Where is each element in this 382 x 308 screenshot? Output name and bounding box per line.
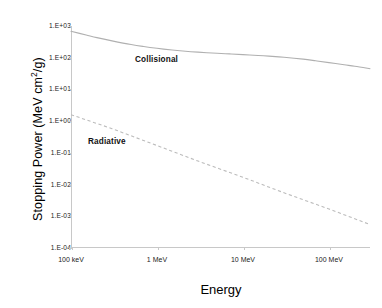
- x-axis-tick-label: 100 keV: [58, 256, 84, 263]
- y-axis-tick-label: 1.E+02: [31, 54, 71, 61]
- collisional-series-label: Collisional: [135, 55, 178, 64]
- radiative-curve: [71, 115, 370, 225]
- y-axis-tick-label: 1.E+00: [31, 117, 71, 124]
- x-axis-tick-label: 10 MeV: [231, 256, 255, 263]
- x-axis-tick-label: 100 MeV: [315, 256, 343, 263]
- stopping-power-chart: Stopping Power (MeV cm2/g) 1.E+031.E+021…: [0, 0, 382, 308]
- y-axis-tick-label: 1.E+01: [31, 85, 71, 92]
- y-axis-tick-label: 1.E-01: [31, 149, 71, 156]
- y-axis-tick-label: 1.E-03: [31, 212, 71, 219]
- y-axis-tick-label: 1.E-04: [31, 244, 71, 251]
- y-axis-tick-label: 1.E-02: [31, 181, 71, 188]
- x-axis-title: Energy: [71, 282, 371, 297]
- collisional-curve: [71, 31, 370, 68]
- radiative-series-label: Radiative: [88, 137, 126, 146]
- y-axis-tick-label: 1.E+03: [31, 22, 71, 29]
- x-axis-tick-label: 1 MeV: [147, 256, 167, 263]
